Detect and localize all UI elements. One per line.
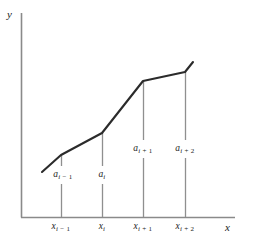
x-tick-sub-i-minus-1: i − 1 [56,225,70,233]
plot-canvas [0,0,257,245]
y-axis-label: y [7,9,12,20]
x-axis-label: x [225,222,230,233]
x-tick-sub-i: i [103,225,105,233]
value-sub-a-i-minus-1: i − 1 [58,173,72,181]
x-tick-sub-i-plus-2: i + 2 [180,225,194,233]
x-tick-sub-i-plus-1: i + 1 [138,225,152,233]
piecewise-linear-curve [42,62,193,172]
value-label-a-i: ai [98,170,105,181]
value-sub-a-i: i [103,173,105,181]
figure-graph-piecewise-linear: y x xi − 1 xi xi + 1 xi + 2 ai − 1 ai ai… [0,0,257,245]
x-tick-label-i-minus-1: xi − 1 [52,222,71,233]
value-label-a-i-plus-2: ai + 2 [175,144,194,155]
value-sub-a-i-plus-1: i + 1 [138,147,152,155]
value-label-a-i-minus-1: ai − 1 [53,170,72,181]
x-tick-label-i-plus-2: xi + 2 [176,222,195,233]
x-tick-label-i: xi [99,222,106,233]
value-label-a-i-plus-1: ai + 1 [133,144,152,155]
x-tick-label-i-plus-1: xi + 1 [134,222,153,233]
value-sub-a-i-plus-2: i + 2 [180,147,194,155]
